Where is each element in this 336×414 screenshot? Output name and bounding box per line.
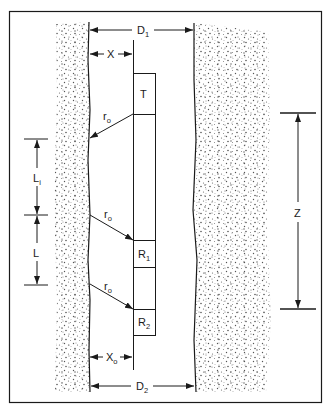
right-formation (193, 23, 271, 392)
d2-label: D2 (136, 380, 148, 395)
tool-spacer-1 (134, 115, 156, 241)
li-l-dimension (24, 139, 48, 285)
tool-spacer-2 (134, 268, 156, 310)
ray-1 (90, 114, 133, 138)
ray-2-label: ro (104, 208, 112, 223)
borehole-diagram: T R1 R2 ro ro ro D1 X Xo D2 Li (0, 0, 336, 414)
left-formation (54, 22, 90, 392)
transmitter-label: T (140, 88, 147, 100)
d1-label: D1 (137, 24, 149, 39)
ray-1-label: ro (103, 110, 111, 125)
l-label: L (33, 247, 39, 259)
li-label: Li (33, 172, 41, 187)
ray-paths (90, 114, 133, 309)
xo-label: Xo (106, 351, 118, 366)
z-label: Z (294, 207, 301, 219)
x-label: X (107, 48, 115, 60)
